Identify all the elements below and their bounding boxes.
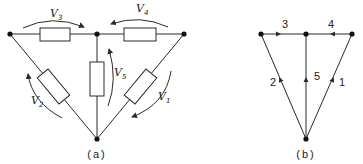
node — [94, 31, 99, 36]
edge-label-4: 4 — [328, 18, 334, 30]
arrow-edge-3 — [276, 32, 281, 37]
label-v2: V2 — [31, 94, 44, 109]
resistor-2 — [37, 69, 69, 104]
resistor-5 — [90, 62, 104, 96]
resistor-1 — [124, 69, 156, 104]
node — [181, 31, 186, 36]
label-v5: V5 — [114, 66, 127, 81]
edge-2 — [261, 34, 306, 139]
edge-label-5: 5 — [314, 70, 320, 82]
voltage-arrow-v4 — [111, 20, 168, 27]
node — [7, 31, 12, 36]
circuit-figure: V3 V4 V5 V2 V1 (a) 3 4 5 2 1 — [0, 0, 363, 164]
resistor-4 — [124, 28, 156, 41]
resistor-3 — [40, 28, 70, 41]
arrow-edge-5 — [304, 77, 309, 82]
edge-label-1: 1 — [339, 76, 345, 88]
label-v1: V1 — [158, 90, 170, 105]
label-v4: V4 — [136, 2, 148, 17]
edge-label-3: 3 — [282, 18, 288, 30]
caption-b: (b) — [296, 148, 315, 160]
arrow-edge-4 — [330, 32, 335, 37]
node — [258, 31, 263, 36]
edge-label-2: 2 — [270, 76, 276, 88]
circuit-diagram-a: V3 V4 V5 V2 V1 (a) — [7, 2, 186, 160]
arrow-edge-2 — [277, 76, 284, 83]
node — [303, 136, 308, 141]
node — [349, 31, 354, 36]
graph-diagram-b: 3 4 5 2 1 (b) — [258, 18, 354, 160]
label-v3: V3 — [50, 7, 62, 22]
caption-a: (a) — [87, 148, 106, 160]
voltage-arrow-v5 — [108, 49, 113, 106]
voltage-arrow-v3 — [23, 21, 84, 28]
node — [303, 31, 308, 36]
node — [94, 136, 99, 141]
